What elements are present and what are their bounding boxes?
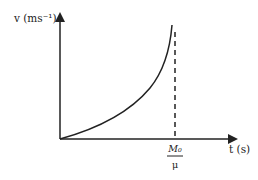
- tick-denominator: μ: [172, 159, 178, 170]
- y-axis-label: v (ms⁻¹): [13, 12, 57, 24]
- x-axis-label: t (s): [229, 143, 250, 155]
- tick-numerator: M₀: [167, 143, 182, 154]
- velocity-curve: [60, 25, 172, 139]
- velocity-time-graph: v (ms⁻¹) t (s) M₀ μ: [0, 0, 258, 180]
